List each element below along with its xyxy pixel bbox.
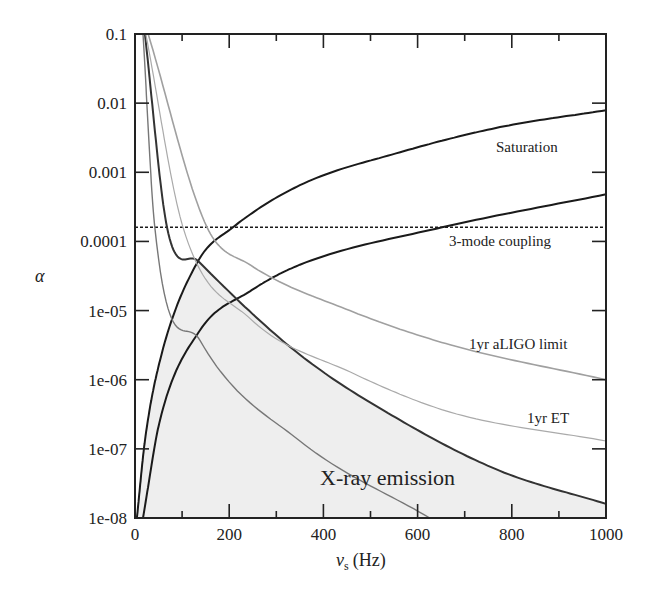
y-tick-label: 1e-08 [88,509,127,528]
y-tick-label: 1e-05 [88,302,127,321]
x-tick-label: 600 [405,525,431,544]
x-tick-label: 1000 [589,525,623,544]
y-tick-label: 1e-06 [88,371,127,390]
xray-emission-label: X-ray emission [320,465,455,490]
x-axis-label-nu: ν [336,550,344,570]
x-tick-label: 200 [216,525,242,544]
x-tick-label: 400 [311,525,337,544]
aligo-limit-label: 1yr aLIGO limit [469,336,568,352]
et-label: 1yr ET [527,410,569,426]
chart: 020040060080010000.10.010.0010.00011e-05… [0,0,658,603]
saturation-label: Saturation [496,139,558,155]
x-axis-label-sub: s [344,559,349,573]
y-tick-label: 0.0001 [80,232,127,251]
y-tick-label: 0.1 [106,25,127,44]
x-axis-label-unit: (Hz) [353,550,386,571]
coupling-label: 3-mode coupling [449,233,552,249]
x-axis-label: νs(Hz) [336,550,386,573]
y-axis-label: α [35,266,45,286]
y-tick-label: 0.001 [89,163,127,182]
x-tick-label: 0 [131,525,140,544]
x-tick-label: 800 [499,525,525,544]
y-tick-label: 0.01 [97,94,127,113]
y-tick-label: 1e-07 [88,440,127,459]
